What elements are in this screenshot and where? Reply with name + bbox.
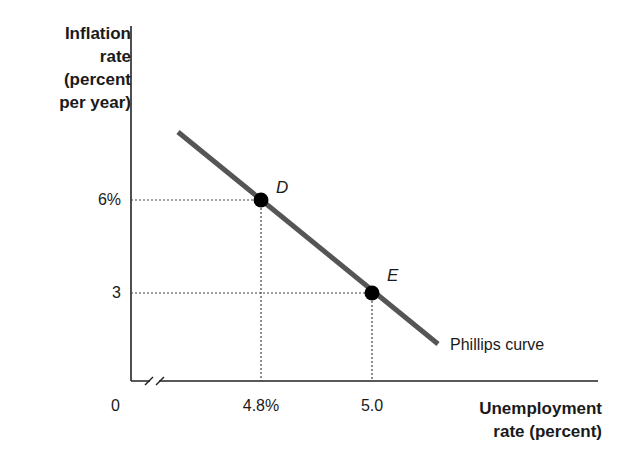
y-axis-label-line: (percent	[1, 68, 131, 91]
x-origin-label: 0	[111, 397, 120, 415]
phillips-curve	[178, 132, 438, 344]
x-axis-label-line: rate (percent)	[402, 420, 602, 443]
phillips-curve-label: Phillips curve	[450, 336, 544, 354]
x-axis-label-line: Unemployment	[402, 397, 602, 420]
x-tick-5-0: 5.0	[342, 397, 402, 415]
y-tick-6: 6%	[81, 191, 121, 209]
point-e	[365, 286, 380, 301]
y-axis-label-line: Inflation	[1, 22, 131, 45]
y-axis-label-line: rate	[1, 45, 131, 68]
x-tick-4-8: 4.8%	[231, 397, 291, 415]
point-d	[254, 193, 269, 208]
y-axis-label: Inflation rate (percent per year)	[1, 22, 131, 114]
x-axis-label: Unemployment rate (percent)	[402, 397, 602, 443]
point-d-label: D	[276, 178, 288, 198]
point-e-label: E	[387, 266, 398, 286]
y-axis-label-line: per year)	[1, 91, 131, 114]
y-tick-3: 3	[81, 284, 121, 302]
